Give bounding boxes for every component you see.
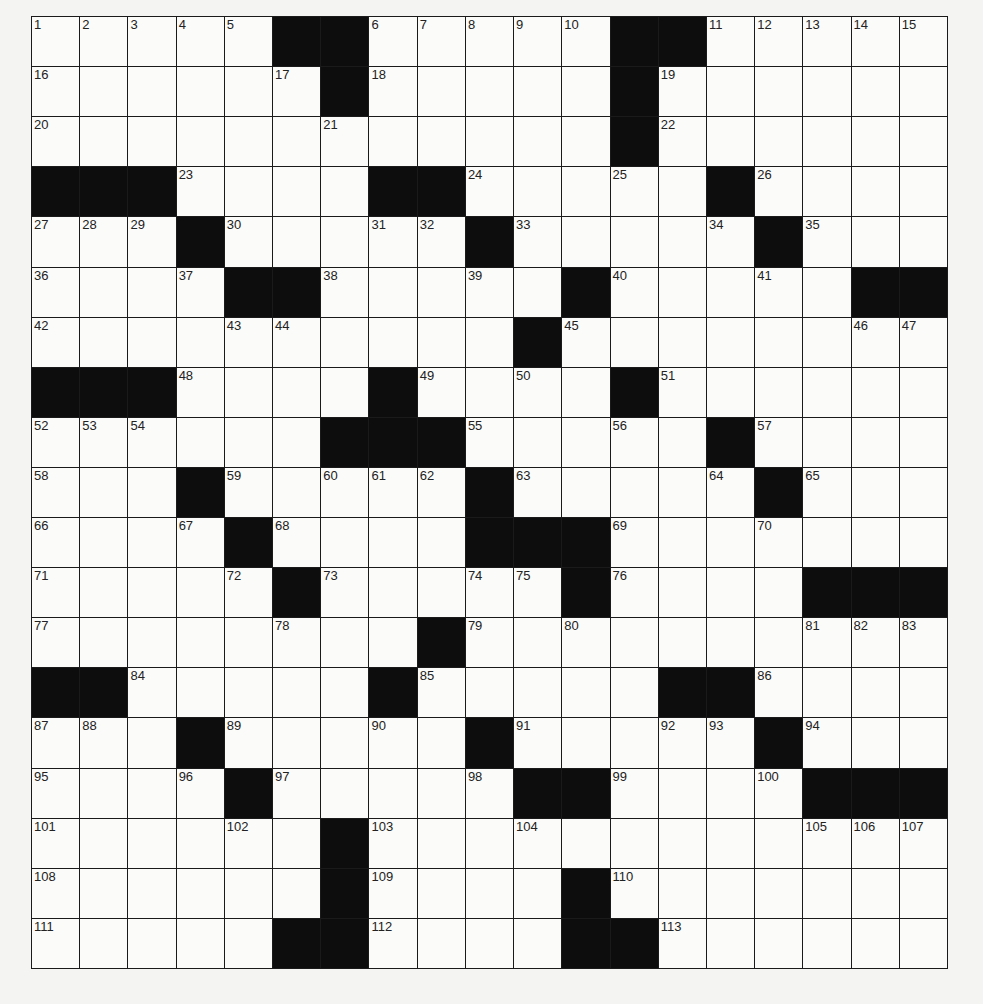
grid-cell[interactable] xyxy=(562,217,609,266)
grid-cell[interactable] xyxy=(466,368,513,417)
grid-cell[interactable] xyxy=(611,217,658,266)
grid-cell[interactable]: 109 xyxy=(369,869,416,918)
grid-cell[interactable] xyxy=(900,418,947,467)
grid-cell[interactable] xyxy=(80,869,127,918)
grid-cell[interactable] xyxy=(562,668,609,717)
grid-cell[interactable] xyxy=(755,618,802,667)
grid-cell[interactable] xyxy=(803,418,850,467)
grid-cell[interactable] xyxy=(803,117,850,166)
grid-cell[interactable]: 54 xyxy=(128,418,175,467)
grid-cell[interactable] xyxy=(900,167,947,216)
grid-cell[interactable] xyxy=(852,67,899,116)
grid-cell[interactable]: 26 xyxy=(755,167,802,216)
grid-cell[interactable] xyxy=(321,368,368,417)
grid-cell[interactable]: 56 xyxy=(611,418,658,467)
grid-cell[interactable]: 62 xyxy=(418,468,465,517)
grid-cell[interactable] xyxy=(659,468,706,517)
grid-cell[interactable] xyxy=(369,318,416,367)
grid-cell[interactable] xyxy=(755,869,802,918)
grid-cell[interactable]: 36 xyxy=(32,268,79,317)
grid-cell[interactable]: 77 xyxy=(32,618,79,667)
grid-cell[interactable] xyxy=(659,418,706,467)
grid-cell[interactable]: 78 xyxy=(273,618,320,667)
grid-cell[interactable]: 50 xyxy=(514,368,561,417)
grid-cell[interactable] xyxy=(803,668,850,717)
grid-cell[interactable] xyxy=(80,468,127,517)
grid-cell[interactable] xyxy=(321,668,368,717)
grid-cell[interactable]: 10 xyxy=(562,17,609,66)
grid-cell[interactable] xyxy=(659,568,706,617)
grid-cell[interactable]: 42 xyxy=(32,318,79,367)
grid-cell[interactable]: 90 xyxy=(369,718,416,767)
grid-cell[interactable] xyxy=(177,618,224,667)
grid-cell[interactable] xyxy=(128,318,175,367)
grid-cell[interactable] xyxy=(177,418,224,467)
grid-cell[interactable] xyxy=(273,819,320,868)
grid-cell[interactable] xyxy=(900,117,947,166)
grid-cell[interactable] xyxy=(369,568,416,617)
grid-cell[interactable] xyxy=(900,217,947,266)
grid-cell[interactable] xyxy=(562,117,609,166)
grid-cell[interactable] xyxy=(852,217,899,266)
grid-cell[interactable]: 92 xyxy=(659,718,706,767)
grid-cell[interactable] xyxy=(369,268,416,317)
grid-cell[interactable]: 33 xyxy=(514,217,561,266)
grid-cell[interactable]: 40 xyxy=(611,268,658,317)
grid-cell[interactable] xyxy=(803,67,850,116)
grid-cell[interactable]: 70 xyxy=(755,518,802,567)
grid-cell[interactable]: 86 xyxy=(755,668,802,717)
grid-cell[interactable]: 73 xyxy=(321,568,368,617)
grid-cell[interactable] xyxy=(659,318,706,367)
grid-cell[interactable] xyxy=(418,67,465,116)
grid-cell[interactable]: 19 xyxy=(659,67,706,116)
grid-cell[interactable]: 72 xyxy=(225,568,272,617)
grid-cell[interactable] xyxy=(418,869,465,918)
grid-cell[interactable]: 46 xyxy=(852,318,899,367)
grid-cell[interactable]: 8 xyxy=(466,17,513,66)
grid-cell[interactable]: 75 xyxy=(514,568,561,617)
grid-cell[interactable]: 43 xyxy=(225,318,272,367)
grid-cell[interactable] xyxy=(755,919,802,968)
grid-cell[interactable]: 34 xyxy=(707,217,754,266)
grid-cell[interactable] xyxy=(80,268,127,317)
grid-cell[interactable]: 2 xyxy=(80,17,127,66)
grid-cell[interactable]: 82 xyxy=(852,618,899,667)
grid-cell[interactable] xyxy=(128,518,175,567)
grid-cell[interactable] xyxy=(707,769,754,818)
grid-cell[interactable] xyxy=(177,668,224,717)
grid-cell[interactable] xyxy=(803,318,850,367)
grid-cell[interactable] xyxy=(418,919,465,968)
grid-cell[interactable] xyxy=(707,568,754,617)
grid-cell[interactable] xyxy=(321,217,368,266)
grid-cell[interactable] xyxy=(273,418,320,467)
grid-cell[interactable] xyxy=(852,869,899,918)
grid-cell[interactable]: 24 xyxy=(466,167,513,216)
grid-cell[interactable]: 22 xyxy=(659,117,706,166)
grid-cell[interactable]: 57 xyxy=(755,418,802,467)
grid-cell[interactable] xyxy=(803,869,850,918)
grid-cell[interactable]: 105 xyxy=(803,819,850,868)
grid-cell[interactable] xyxy=(562,468,609,517)
grid-cell[interactable]: 31 xyxy=(369,217,416,266)
grid-cell[interactable] xyxy=(177,869,224,918)
grid-cell[interactable] xyxy=(177,819,224,868)
grid-cell[interactable] xyxy=(755,568,802,617)
grid-cell[interactable] xyxy=(225,618,272,667)
grid-cell[interactable]: 95 xyxy=(32,769,79,818)
grid-cell[interactable] xyxy=(466,819,513,868)
grid-cell[interactable] xyxy=(611,819,658,868)
grid-cell[interactable] xyxy=(418,718,465,767)
grid-cell[interactable]: 110 xyxy=(611,869,658,918)
grid-cell[interactable]: 89 xyxy=(225,718,272,767)
grid-cell[interactable] xyxy=(369,518,416,567)
grid-cell[interactable]: 45 xyxy=(562,318,609,367)
grid-cell[interactable]: 58 xyxy=(32,468,79,517)
grid-cell[interactable]: 76 xyxy=(611,568,658,617)
grid-cell[interactable] xyxy=(852,518,899,567)
grid-cell[interactable] xyxy=(803,368,850,417)
grid-cell[interactable] xyxy=(707,368,754,417)
grid-cell[interactable]: 55 xyxy=(466,418,513,467)
grid-cell[interactable] xyxy=(80,618,127,667)
grid-cell[interactable] xyxy=(562,67,609,116)
grid-cell[interactable]: 61 xyxy=(369,468,416,517)
